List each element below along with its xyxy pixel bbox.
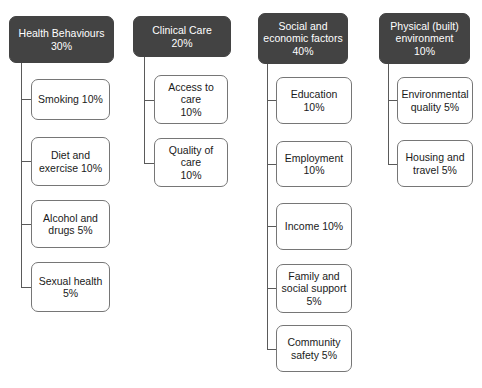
connector-branch-housing-and-travel xyxy=(388,164,397,165)
determinants-of-health-diagram: Health Behaviours 30% Smoking 10% Diet a… xyxy=(0,0,482,388)
child-label-community-safety: Community safety 5% xyxy=(287,336,340,361)
head-label-physical-built-environment: Physical (built) environment 10% xyxy=(390,20,458,57)
child-box-community-safety[interactable]: Community safety 5% xyxy=(276,325,352,372)
head-box-clinical-care[interactable]: Clinical Care 20% xyxy=(133,16,231,57)
child-box-diet-and-exercise[interactable]: Diet and exercise 10% xyxy=(31,137,110,186)
connector-branch-smoking xyxy=(21,99,31,100)
child-label-sexual-health: Sexual health 5% xyxy=(39,275,103,300)
child-label-quality-of-care: Quality of care 10% xyxy=(159,144,223,181)
connector-branch-sexual-health xyxy=(21,287,31,288)
connector-branch-alcohol-and-drugs xyxy=(21,224,31,225)
child-box-access-to-care[interactable]: Access to care 10% xyxy=(154,75,228,124)
child-label-smoking: Smoking 10% xyxy=(38,93,103,105)
connector-branch-income xyxy=(267,226,276,227)
child-label-employment: Employment 10% xyxy=(285,152,343,177)
connector-branch-education xyxy=(267,100,276,101)
child-box-family-and-social-support[interactable]: Family and social support 5% xyxy=(276,264,352,313)
child-box-smoking[interactable]: Smoking 10% xyxy=(31,79,110,120)
head-box-health-behaviours[interactable]: Health Behaviours 30% xyxy=(9,16,114,63)
child-box-housing-and-travel[interactable]: Housing and travel 5% xyxy=(397,140,473,187)
connector-branch-environmental-quality xyxy=(388,100,397,101)
child-label-alcohol-and-drugs: Alcohol and drugs 5% xyxy=(43,212,98,237)
head-label-clinical-care: Clinical Care 20% xyxy=(152,24,212,49)
head-box-physical-built-environment[interactable]: Physical (built) environment 10% xyxy=(379,13,470,64)
child-box-quality-of-care[interactable]: Quality of care 10% xyxy=(154,138,228,187)
child-label-environmental-quality: Environmental quality 5% xyxy=(401,88,468,113)
child-box-income[interactable]: Income 10% xyxy=(276,203,352,250)
connector-branch-diet-and-exercise xyxy=(21,161,31,162)
child-box-education[interactable]: Education 10% xyxy=(276,77,352,124)
connector-trunk-clinical-care xyxy=(144,57,145,163)
connector-trunk-health-behaviours xyxy=(21,63,22,288)
head-label-social-and-economic-factors: Social and economic factors 40% xyxy=(263,20,342,57)
connector-branch-employment xyxy=(267,164,276,165)
child-label-diet-and-exercise: Diet and exercise 10% xyxy=(39,149,102,174)
child-label-family-and-social-support: Family and social support 5% xyxy=(282,270,347,307)
head-box-social-and-economic-factors[interactable]: Social and economic factors 40% xyxy=(258,13,348,64)
child-box-alcohol-and-drugs[interactable]: Alcohol and drugs 5% xyxy=(31,200,110,248)
child-box-environmental-quality[interactable]: Environmental quality 5% xyxy=(397,77,473,124)
child-box-employment[interactable]: Employment 10% xyxy=(276,141,352,187)
head-label-health-behaviours: Health Behaviours 30% xyxy=(19,27,105,52)
connector-trunk-physical-built-environment xyxy=(388,64,389,164)
child-label-housing-and-travel: Housing and travel 5% xyxy=(406,151,465,176)
child-label-income: Income 10% xyxy=(285,220,343,232)
connector-branch-access-to-care xyxy=(144,100,154,101)
connector-branch-quality-of-care xyxy=(144,163,154,164)
child-box-sexual-health[interactable]: Sexual health 5% xyxy=(31,262,110,312)
connector-trunk-social-and-economic-factors xyxy=(267,64,268,349)
child-label-education: Education 10% xyxy=(281,88,347,113)
child-label-access-to-care: Access to care 10% xyxy=(159,81,223,118)
connector-branch-family-and-social-support xyxy=(267,288,276,289)
connector-branch-community-safety xyxy=(267,349,276,350)
